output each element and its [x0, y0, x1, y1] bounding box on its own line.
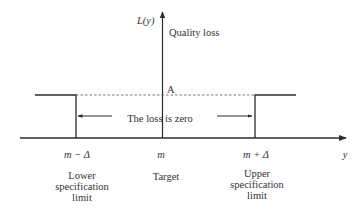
lower-caption-line-1: Lower	[55, 170, 109, 181]
lower-caption-line-2: specification	[55, 181, 109, 192]
left-loss-step	[35, 95, 76, 138]
y-axis-label: L(y)	[137, 15, 155, 26]
upper-caption-line-3: limit	[230, 190, 284, 201]
tick-upper-limit: m + Δ	[243, 149, 269, 160]
y-axis-caption: Quality loss	[169, 27, 219, 38]
zero-loss-text: The loss is zero	[127, 113, 193, 124]
right-loss-step	[255, 95, 296, 138]
tick-lower-limit: m − Δ	[64, 149, 90, 160]
target-caption: Target	[153, 171, 179, 182]
upper-limit-caption: Upper specification limit	[230, 168, 284, 201]
upper-caption-line-1: Upper	[230, 168, 284, 179]
lower-limit-caption: Lower specification limit	[55, 170, 109, 203]
tick-target: m	[157, 149, 165, 160]
upper-caption-line-2: specification	[230, 179, 284, 190]
x-axis-label: y	[343, 149, 348, 160]
lower-caption-line-3: limit	[55, 192, 109, 203]
level-label: A	[167, 84, 175, 95]
target-caption-line-1: Target	[153, 171, 179, 182]
